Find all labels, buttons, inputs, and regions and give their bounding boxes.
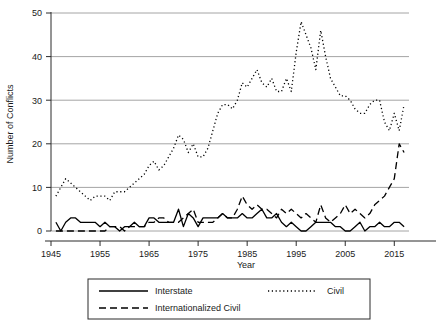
x-tick-label-1965: 1965 <box>139 249 159 259</box>
y-tick-label-50: 50 <box>32 8 42 18</box>
legend-border <box>88 279 370 319</box>
conflicts-line-chart: 0102030405019451955196519751985199520052… <box>0 0 446 326</box>
y-tick-label-40: 40 <box>32 52 42 62</box>
y-tick-label-10: 10 <box>32 183 42 193</box>
y-tick-label-0: 0 <box>37 226 42 236</box>
series-layer <box>56 22 404 231</box>
x-tick-label-2015: 2015 <box>384 249 404 259</box>
x-tick-label-1975: 1975 <box>188 249 208 259</box>
x-tick-label-1995: 1995 <box>286 249 306 259</box>
x-tick-label-1985: 1985 <box>237 249 257 259</box>
axes <box>45 12 436 246</box>
x-axis-title: Year <box>237 260 255 270</box>
x-tick-label-2005: 2005 <box>335 249 355 259</box>
y-axis-title: Number of Conflicts <box>5 84 15 164</box>
x-tick-label-1955: 1955 <box>90 249 110 259</box>
y-tick-label-30: 30 <box>32 96 42 106</box>
legend-label-interstate: Interstate <box>155 286 193 296</box>
tick-labels: 0102030405019451955196519751985199520052… <box>32 8 404 259</box>
y-tick-label-20: 20 <box>32 139 42 149</box>
series-line-civil <box>56 22 404 201</box>
chart-canvas: 0102030405019451955196519751985199520052… <box>0 0 446 326</box>
legend-label-civil: Civil <box>327 286 344 296</box>
legend: Interstate Civil Internationalized Civil <box>88 279 370 319</box>
series-line-interstate <box>56 209 404 231</box>
x-tick-label-1945: 1945 <box>41 249 61 259</box>
gridlines <box>51 13 409 231</box>
legend-label-internationalized-civil: Internationalized Civil <box>155 303 241 313</box>
